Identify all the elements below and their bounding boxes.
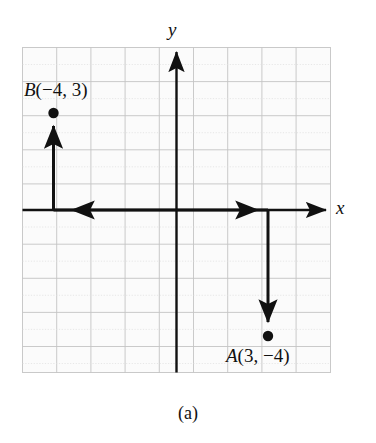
point-label-b: B(−4, 3) <box>24 80 87 99</box>
point-label-a-coords: (3, −4) <box>238 345 290 366</box>
y-axis-label: y <box>168 20 176 39</box>
point-label-b-coords: (−4, 3) <box>36 79 88 100</box>
coordinate-plane-figure: y x B(−4, 3) A(3, −4) (a) <box>0 0 376 443</box>
x-axis-label: x <box>336 198 344 217</box>
coordinate-plane-graphic <box>0 0 376 443</box>
point-label-b-name: B <box>24 79 36 100</box>
point-label-a: A(3, −4) <box>226 346 289 365</box>
point-label-a-name: A <box>226 345 238 366</box>
point-marker-b <box>48 108 58 118</box>
point-marker-a <box>263 331 273 341</box>
figure-caption: (a) <box>0 403 376 424</box>
